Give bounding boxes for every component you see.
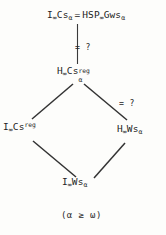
node-hcsreg-alpha: H∞Csregα xyxy=(57,66,78,78)
node-iws-symbol2: Ws xyxy=(72,176,84,187)
node-hws-alpha: H∞Wsα xyxy=(117,124,142,136)
edge-label-right-diagonal: = ? xyxy=(119,98,135,108)
node-icsreg-superscript: reg xyxy=(24,121,35,128)
node-top-icsalpha-hspgwsalpha: I∞Csα=HSP∞Gwsα xyxy=(47,10,125,22)
node-top-relation: = xyxy=(72,9,82,20)
edge-icsreg-to-iws xyxy=(33,141,76,177)
lattice-diagram: I∞Csα=HSP∞Gwsα H∞Csregα I∞Csreg H∞Wsα I∞… xyxy=(0,0,166,235)
node-icsreg-symbol2: Cs xyxy=(13,121,25,132)
edge-hcsreg-to-icsreg xyxy=(32,84,73,119)
node-hws-subscript2: α xyxy=(138,128,142,136)
node-top-right-subscript2: α xyxy=(121,14,125,22)
edge-hws-to-iws xyxy=(94,143,125,178)
node-icsreg: I∞Csreg xyxy=(3,122,36,134)
node-top-right-symbol2: Gws xyxy=(104,9,121,20)
node-hcsreg-superscript: reg xyxy=(78,68,89,74)
diagram-caption: (α ≥ ω) xyxy=(61,210,102,220)
node-top-left-symbol2: Cs xyxy=(57,9,69,20)
edge-layer xyxy=(0,0,166,235)
node-iws-subscript2: α xyxy=(83,181,87,189)
node-hws-symbol2: Ws xyxy=(127,123,139,134)
node-iws-alpha: I∞Wsα xyxy=(62,177,87,189)
node-hcsreg-symbol2: Cs xyxy=(67,65,79,76)
node-top-right-symbol: HSP xyxy=(82,9,99,20)
edge-label-top-vertical: = ? xyxy=(75,42,91,52)
node-hcsreg-subscript2: α xyxy=(78,77,82,84)
